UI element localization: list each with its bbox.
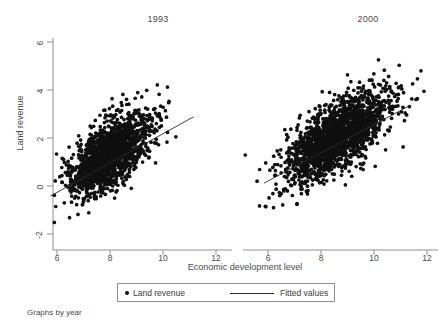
y-tick-label-2: 2 — [35, 132, 45, 146]
legend-point-marker-icon — [125, 291, 129, 295]
y-tick-label-neg2: -2 — [34, 228, 44, 242]
scatter-points-1993 — [52, 83, 177, 224]
panel-title-1993: 1993 — [88, 14, 228, 24]
legend: Land revenue Fitted values — [117, 283, 335, 302]
y-tick-label-4: 4 — [35, 84, 45, 98]
x-axis-label: Economic development level — [52, 262, 438, 272]
y-tick-label-6: 6 — [35, 36, 45, 50]
scatter-plot-figure: 1993 2000 Land revenue 6 4 2 0 -2 6 8 10… — [0, 0, 448, 327]
panel-title-2000: 2000 — [298, 14, 438, 24]
y-axis-label: Land revenue — [15, 63, 25, 183]
scatter-points-2000 — [243, 58, 425, 210]
plot-canvas — [0, 0, 448, 327]
y-tick-label-0: 0 — [35, 180, 45, 194]
legend-line-marker-icon — [230, 293, 274, 294]
figure-caption: Graphs by year — [27, 308, 82, 317]
legend-label-land-revenue: Land revenue — [133, 288, 185, 298]
legend-label-fitted-values: Fitted values — [280, 288, 328, 298]
